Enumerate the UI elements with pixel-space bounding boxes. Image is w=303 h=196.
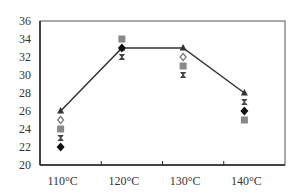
x-tick-label: 110°C xyxy=(47,174,77,188)
y-tick-label: 22 xyxy=(19,140,31,154)
x-marker xyxy=(119,55,124,60)
diamond-marker xyxy=(240,107,248,116)
open-diamond-marker xyxy=(180,54,186,61)
y-tick-label: 30 xyxy=(19,68,31,82)
series-layer xyxy=(57,36,249,152)
y-tick-label: 32 xyxy=(19,50,31,64)
x-tick-label: 120°C xyxy=(108,174,139,188)
series-line xyxy=(61,48,245,111)
y-tick-label: 26 xyxy=(19,104,31,118)
y-tick-label: 20 xyxy=(19,158,31,172)
square-marker xyxy=(241,117,248,124)
x-marker xyxy=(181,73,186,78)
x-tick-label: 130°C xyxy=(170,174,201,188)
diamond-marker xyxy=(57,143,65,152)
y-tick-label: 36 xyxy=(19,14,31,28)
series-square xyxy=(57,36,248,133)
y-axis: 202224262830323436 xyxy=(19,14,31,172)
open-diamond-marker xyxy=(58,117,64,124)
y-tick-label: 24 xyxy=(19,122,31,136)
series-x xyxy=(58,55,247,141)
series-open-diamond xyxy=(58,54,187,124)
plot-border xyxy=(40,21,285,165)
x-tick-label: 140°C xyxy=(231,174,262,188)
y-tick-label: 28 xyxy=(19,86,31,100)
x-marker xyxy=(58,136,63,141)
y-tick-label: 34 xyxy=(19,32,31,46)
square-marker xyxy=(118,36,125,43)
square-marker xyxy=(180,63,187,70)
series-diamond xyxy=(57,44,249,152)
chart: 202224262830323436 110°C120°C130°C140°C xyxy=(0,0,303,196)
square-marker xyxy=(57,126,64,133)
triangle-marker xyxy=(241,89,248,96)
x-marker xyxy=(242,100,247,105)
series-triangle xyxy=(57,44,248,114)
plot-frame xyxy=(40,21,285,165)
